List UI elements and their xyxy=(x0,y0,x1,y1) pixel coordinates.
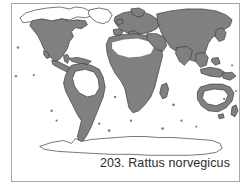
figure-root: 203. Rattus norvegicus xyxy=(0,0,248,191)
island-dot xyxy=(130,119,132,121)
island-dot xyxy=(56,120,58,122)
island-dot xyxy=(15,75,17,77)
island-dot xyxy=(108,129,111,132)
island-dot xyxy=(17,46,20,49)
world-distribution-map xyxy=(12,4,239,181)
island-dot xyxy=(96,100,98,102)
island-dot xyxy=(223,98,225,100)
figure-caption: 203. Rattus norvegicus xyxy=(94,156,230,171)
island-dot xyxy=(88,114,90,116)
island-dot xyxy=(172,103,175,106)
island-dot xyxy=(231,64,233,66)
island-dot xyxy=(84,128,86,130)
island-dot xyxy=(50,110,53,113)
island-dot xyxy=(33,74,35,76)
island-dot xyxy=(161,127,164,130)
tasmania-distribution xyxy=(218,114,224,119)
island-dot xyxy=(98,122,100,124)
island-dot xyxy=(114,96,116,98)
island-dot xyxy=(180,119,182,121)
island-dot xyxy=(235,90,237,92)
island-dot xyxy=(195,126,197,128)
island-dot xyxy=(205,72,207,74)
